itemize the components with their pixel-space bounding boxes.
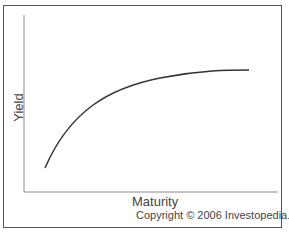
yield-curve — [45, 70, 249, 168]
y-axis-label: Yield — [11, 88, 26, 128]
copyright-text: Copyright © 2006 Investopedia.com — [136, 209, 289, 221]
x-axis-label: Maturity — [132, 194, 178, 209]
